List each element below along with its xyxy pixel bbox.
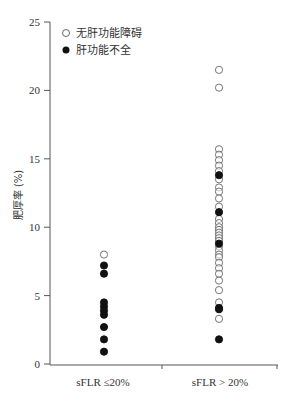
filled-data-point xyxy=(100,311,107,318)
filled-data-point xyxy=(215,172,222,179)
open-data-point xyxy=(215,277,222,284)
y-tick-label: 0 xyxy=(35,358,41,370)
open-data-point xyxy=(215,66,222,73)
filled-data-point xyxy=(215,336,222,343)
y-axis-label: 肥厚率 (%) xyxy=(12,170,24,221)
legend-item-insufficiency: 肝功能不全 xyxy=(76,43,131,57)
scatter-chart: 0510152025 sFLR ≤20%sFLR > 20% 肥厚率 (%) 无… xyxy=(0,0,291,403)
open-data-point xyxy=(215,315,222,322)
open-circle-icon xyxy=(63,30,70,37)
y-tick-label: 10 xyxy=(29,221,41,233)
filled-data-point xyxy=(215,240,222,247)
y-ticks: 0510152025 xyxy=(29,16,50,370)
filled-data-point xyxy=(100,270,107,277)
filled-data-point xyxy=(215,306,222,313)
filled-data-point xyxy=(100,262,107,269)
open-data-point xyxy=(215,195,222,202)
y-tick-label: 15 xyxy=(29,153,41,165)
x-tick-label: sFLR > 20% xyxy=(192,376,248,388)
open-data-point xyxy=(100,251,107,258)
data-points xyxy=(100,66,222,355)
x-tick-label: sFLR ≤20% xyxy=(76,376,129,388)
open-data-point xyxy=(215,287,222,294)
filled-data-point xyxy=(100,336,107,343)
open-data-point xyxy=(215,270,222,277)
y-tick-label: 5 xyxy=(35,290,41,302)
legend-item-no-dysfunction: 无肝功能障碍 xyxy=(76,26,142,40)
filled-data-point xyxy=(215,209,222,216)
filled-data-point xyxy=(100,348,107,355)
filled-data-point xyxy=(100,323,107,330)
open-data-point xyxy=(215,84,222,91)
y-tick-label: 20 xyxy=(29,84,41,96)
y-tick-label: 25 xyxy=(29,16,41,28)
legend: 无肝功能障碍 肝功能不全 xyxy=(63,26,143,57)
x-ticks: sFLR ≤20%sFLR > 20% xyxy=(76,365,277,388)
filled-circle-icon xyxy=(63,47,70,54)
open-data-point xyxy=(215,188,222,195)
